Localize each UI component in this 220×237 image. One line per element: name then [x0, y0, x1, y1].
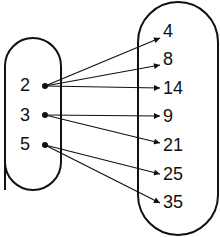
- codomain-label-25: 25: [163, 165, 183, 183]
- arrow-3-to-9: [45, 115, 160, 116]
- codomain-label-4: 4: [163, 22, 173, 40]
- codomain-label-35: 35: [163, 193, 183, 211]
- domain-label-2: 2: [20, 76, 30, 94]
- arrow-2-to-4: [45, 38, 160, 86]
- codomain-label-14: 14: [163, 79, 183, 97]
- domain-set-oval: [5, 38, 61, 190]
- arrow-2-to-14: [45, 86, 160, 88]
- mapping-diagram: [0, 0, 220, 237]
- arrow-3-to-21: [45, 115, 160, 143]
- arrow-5-to-25: [45, 145, 160, 174]
- domain-label-3: 3: [20, 106, 30, 124]
- arrow-2-to-8: [45, 65, 160, 86]
- codomain-label-8: 8: [163, 50, 173, 68]
- codomain-label-9: 9: [163, 107, 173, 125]
- domain-label-5: 5: [20, 135, 30, 153]
- codomain-label-21: 21: [163, 136, 183, 154]
- arrow-5-to-35: [45, 145, 160, 203]
